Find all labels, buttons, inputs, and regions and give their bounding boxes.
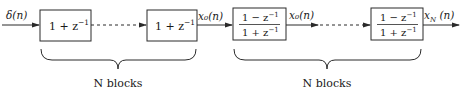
block-2-exp: −1 [184,18,195,27]
block-4: 1 − z−1 1 + z−1 [371,8,423,40]
block-3-num-base: 1 − z [242,12,268,23]
block-1: 1 + z−1 [40,10,91,41]
output-signal-arg: (n) [436,9,454,21]
block-diagram: δ(n) 1 + z−1 1 + z−1 x₀(n) 1 − z−1 1 + z… [0,0,462,94]
output-signal-label: xN (n) [424,9,454,24]
input-signal-label: δ(n) [6,9,27,21]
block-4-num-base: 1 − z [380,12,406,23]
group-brace-1 [41,49,196,69]
group-brace-2 [234,49,421,69]
block-1-base: 1 + z [49,20,78,33]
block-3: 1 − z−1 1 + z−1 [233,8,286,40]
block-1-exp: −1 [78,18,89,27]
block-2-base: 1 + z [155,20,184,33]
group-2-label: N blocks [303,77,352,90]
block-3-den-base: 1 + z [242,27,268,38]
block-3-den-exp: −1 [268,26,278,34]
intermediate-signal-2-label: x₀(n) [289,9,314,21]
intermediate-signal-1-label: x₀(n) [198,10,223,22]
block-2: 1 + z−1 [147,10,197,41]
block-3-num-exp: −1 [268,11,278,19]
group-1-label: N blocks [94,77,143,90]
block-4-den-base: 1 + z [380,27,406,38]
block-4-den-exp: −1 [406,26,416,34]
block-4-num-exp: −1 [406,11,416,19]
